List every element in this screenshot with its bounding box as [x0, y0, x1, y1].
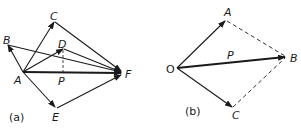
label-C: C [50, 10, 58, 23]
vector-AB [8, 45, 23, 72]
dashed-CB [233, 58, 285, 107]
panel-b [177, 21, 285, 107]
dashed-AB [227, 21, 285, 56]
vector-OC [177, 68, 232, 107]
vector-diagrams: B C D A P F E (a) O A P B C (b) [0, 0, 301, 133]
label-P: P [58, 75, 65, 88]
caption-b: (b) [185, 105, 201, 118]
panel-b-labels: O A P B C (b) [166, 6, 298, 122]
vector-AF [23, 72, 121, 73]
vector-OA [177, 21, 225, 68]
panel-a [8, 22, 121, 108]
label-O: O [166, 63, 175, 76]
label-A: A [13, 74, 22, 87]
vector-AE [23, 72, 55, 107]
vector-AC [23, 22, 54, 72]
caption-a: (a) [9, 111, 24, 124]
label-C: C [232, 109, 240, 122]
label-B: B [3, 34, 11, 47]
panel-a-labels: B C D A P F E (a) [3, 10, 132, 124]
label-B: B [290, 52, 298, 65]
label-E: E [52, 111, 59, 124]
label-F: F [125, 68, 132, 81]
label-D: D [58, 38, 66, 51]
label-P: P [227, 49, 234, 62]
vector-AD [23, 49, 63, 72]
vector-EF [57, 75, 121, 108]
label-A: A [223, 6, 232, 19]
